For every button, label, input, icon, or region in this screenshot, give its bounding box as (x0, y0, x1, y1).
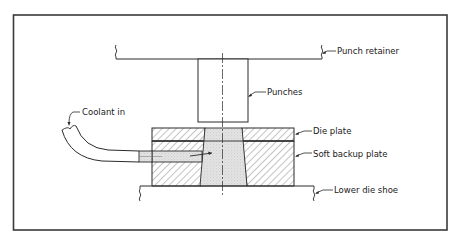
coolant-channel (139, 151, 212, 162)
punch-retainer (115, 45, 323, 59)
hose-end-icon (62, 125, 76, 130)
lower-die-shoe (139, 186, 315, 201)
break-mark-icon (139, 186, 141, 201)
label-die-plate: Die plate (313, 126, 351, 136)
break-mark-icon (115, 45, 117, 59)
break-mark-icon (313, 186, 315, 201)
break-mark-icon (321, 45, 323, 59)
label-coolant-in: Coolant in (82, 107, 125, 117)
coolant-hose (62, 126, 139, 162)
label-lower-die-shoe: Lower die shoe (334, 185, 398, 195)
die-cavity (200, 128, 247, 186)
punch (198, 59, 248, 122)
label-soft-backup-plate: Soft backup plate (313, 149, 387, 159)
label-punches: Punches (267, 87, 303, 97)
label-punch-retainer: Punch retainer (337, 46, 400, 56)
die-assembly-diagram: Punch retainer Punches Coolant in Die pl… (0, 0, 463, 242)
